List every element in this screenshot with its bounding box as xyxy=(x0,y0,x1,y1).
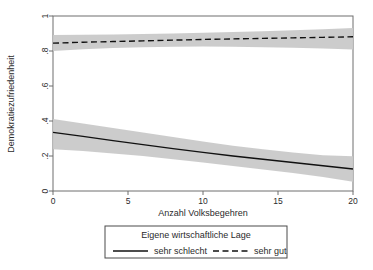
ci-band-sehr-gut xyxy=(53,28,353,51)
chart-legend: Eigene wirtschaftliche Lage sehr schlech… xyxy=(105,226,287,258)
x-tick-label: 15 xyxy=(273,196,283,206)
y-tick-label: .8 xyxy=(40,47,50,54)
y-tick-label: .4 xyxy=(40,117,50,124)
x-tick-label: 0 xyxy=(51,196,56,206)
y-axis: 0.2.4.6.81 xyxy=(40,13,53,193)
legend-label-sehr-gut: sehr gut xyxy=(254,246,287,256)
x-tick-label: 20 xyxy=(348,196,358,206)
x-tick-label: 10 xyxy=(198,196,208,206)
y-tick-label: .6 xyxy=(40,82,50,89)
y-tick-label: 0 xyxy=(40,188,50,193)
chart-figure: 0.2.4.6.81 05101520 Demokratiezufriedenh… xyxy=(0,0,373,270)
ci-bands xyxy=(53,28,353,182)
y-tick-label: 1 xyxy=(40,13,50,18)
legend-label-sehr-schlecht: sehr schlecht xyxy=(154,246,208,256)
legend-title: Eigene wirtschaftliche Lage xyxy=(141,230,251,240)
x-axis: 05101520 xyxy=(51,191,358,206)
ci-band-sehr-schlecht xyxy=(53,119,353,182)
x-axis-title: Anzahl Volksbegehren xyxy=(158,208,248,218)
democracy-satisfaction-line-chart: 0.2.4.6.81 05101520 Demokratiezufriedenh… xyxy=(0,0,373,270)
x-tick-label: 5 xyxy=(126,196,131,206)
y-axis-title: Demokratiezufriedenheit xyxy=(6,55,16,153)
y-tick-label: .2 xyxy=(40,152,50,159)
